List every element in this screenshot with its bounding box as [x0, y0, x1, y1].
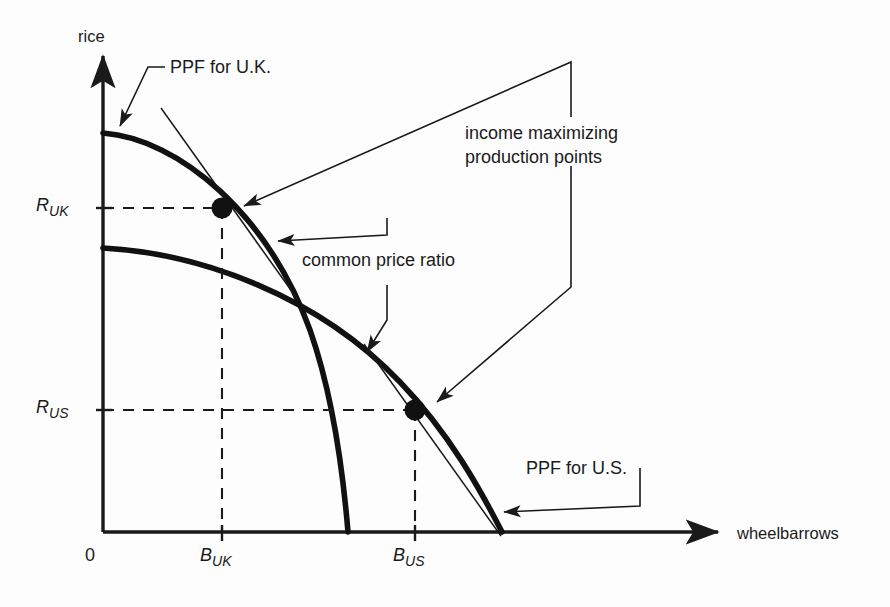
leader-common-price-ratio-upper — [278, 218, 387, 241]
callout-income-maximizing-line1: income maximizing — [465, 122, 618, 145]
y-axis-label: rice — [78, 26, 105, 47]
callout-income-maximizing-line2: production points — [465, 146, 602, 169]
leader-common-price-ratio — [278, 218, 387, 352]
y-tick-sub-r-us: US — [49, 405, 69, 421]
callout-ppf-uk: PPF for U.K. — [170, 56, 271, 79]
x-tick-sub-b-us: US — [405, 553, 425, 569]
leader-common-price-ratio-lower — [367, 285, 387, 352]
y-tick-base-r-uk: R — [36, 195, 49, 215]
production-point-uk — [212, 198, 233, 219]
ppf-uk-curve — [103, 133, 348, 532]
y-tick-label-r-us: RUS — [36, 396, 69, 423]
y-tick-label-r-uk: RUK — [36, 194, 69, 221]
leader-ppf-uk — [120, 67, 165, 126]
leader-income-maximizing — [244, 62, 571, 402]
ppf-us-curve — [103, 248, 502, 532]
tangent-line-us — [364, 344, 501, 536]
diagram-canvas — [0, 0, 890, 607]
callout-common-price-ratio: common price ratio — [302, 249, 455, 272]
ppf-diagram-figure: rice wheelbarrows 0 RUK RUS BUK BUS PPF … — [0, 0, 890, 607]
projection-lines-us — [103, 410, 415, 532]
x-tick-base-b-uk: B — [200, 545, 212, 565]
origin-label: 0 — [85, 544, 95, 567]
x-tick-label-b-us: BUS — [393, 544, 425, 571]
callout-ppf-us: PPF for U.S. — [526, 457, 627, 480]
x-tick-sub-b-uk: UK — [212, 553, 232, 569]
y-tick-base-r-us: R — [36, 397, 49, 417]
x-tick-base-b-us: B — [393, 545, 405, 565]
production-point-us — [405, 400, 426, 421]
x-axis-label: wheelbarrows — [737, 523, 839, 544]
x-tick-label-b-uk: BUK — [200, 544, 232, 571]
leader-income-max-lower — [437, 166, 571, 402]
y-tick-sub-r-uk: UK — [49, 203, 69, 219]
